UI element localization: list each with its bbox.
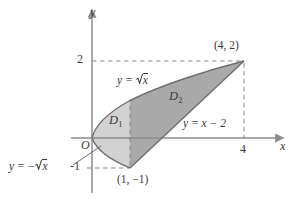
label-lower-curve-equation: y = −x bbox=[9, 158, 47, 172]
region-label-d1: D1 bbox=[109, 114, 122, 127]
y-axis-label: y bbox=[90, 6, 95, 18]
radical-hook-icon bbox=[136, 73, 143, 84]
label-line-equation: y = x − 2 bbox=[183, 118, 226, 130]
radicand-lower: x bbox=[42, 159, 47, 172]
region-d1-subscript: 1 bbox=[118, 119, 122, 129]
label-lower-curve-prefix: y = − bbox=[9, 160, 35, 172]
y-tick-minus-1: -1 bbox=[70, 160, 80, 172]
radical-hook-icon bbox=[35, 159, 42, 170]
x-tick-4: 4 bbox=[240, 143, 246, 155]
region-diagram-svg bbox=[0, 0, 297, 207]
x-axis-label: x bbox=[280, 140, 285, 152]
radicand-upper: x bbox=[143, 73, 148, 86]
point-label-4-2: (4, 2) bbox=[214, 40, 239, 52]
label-upper-curve-equation: y = x bbox=[117, 72, 148, 86]
region-d1-name: D bbox=[109, 113, 118, 127]
region-d2-name: D bbox=[169, 89, 178, 103]
sqrt-symbol-upper: x bbox=[136, 72, 148, 86]
region-label-d2: D2 bbox=[169, 90, 182, 103]
sqrt-symbol-lower: x bbox=[35, 158, 47, 172]
figure-canvas: y x O 2 -1 4 (4, 2) (1, −1) y = x y = −x… bbox=[0, 0, 297, 207]
label-upper-curve-prefix: y = bbox=[117, 74, 136, 86]
y-tick-2: 2 bbox=[77, 53, 83, 65]
region-d2-subscript: 2 bbox=[178, 95, 182, 105]
point-label-1-minus-1: (1, −1) bbox=[117, 174, 148, 186]
origin-label: O bbox=[81, 139, 90, 151]
